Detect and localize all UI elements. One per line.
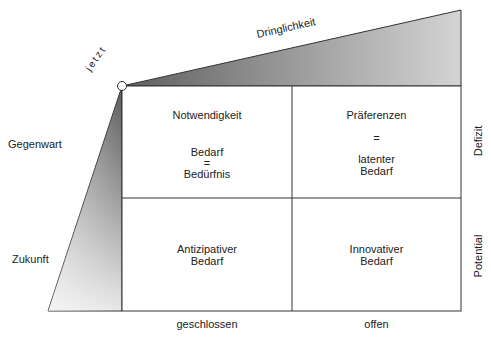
cell-title: Notwendigkeit: [122, 109, 292, 121]
column-label-closed: geschlossen: [122, 318, 292, 331]
cell-line: Bedürfnis: [122, 168, 292, 180]
cell-line: latenter: [292, 153, 461, 165]
cell-title: Präferenzen: [292, 109, 461, 121]
cell-line: Innovativer: [292, 243, 461, 255]
cell-equals: =: [292, 132, 461, 144]
row-label-future: Zukunft: [12, 253, 49, 266]
column-label-open: offen: [292, 318, 461, 331]
side-label-deficit: Defizit: [472, 121, 484, 161]
side-label-potential: Potential: [472, 228, 484, 284]
cell-line: Antizipativer: [122, 243, 292, 255]
cell-anticipatory-need: Antizipativer Bedarf: [122, 198, 292, 311]
row-label-present: Gegenwart: [8, 138, 62, 151]
cell-line: Bedarf: [292, 255, 461, 267]
cell-line: Bedarf: [292, 165, 461, 177]
cell-innovative-need: Innovativer Bedarf: [292, 198, 461, 311]
cell-necessity: Notwendigkeit Bedarf = Bedürfnis: [122, 86, 292, 198]
cell-preferences: Präferenzen = latenter Bedarf: [292, 86, 461, 198]
cell-line: Bedarf: [122, 255, 292, 267]
